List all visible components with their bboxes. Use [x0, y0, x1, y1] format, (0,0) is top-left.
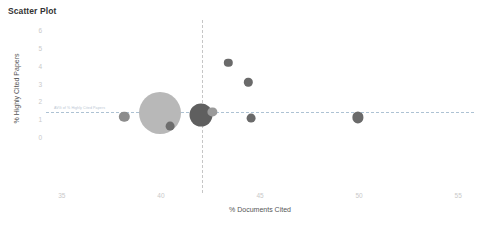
y-axis-tick-label: 2 [16, 98, 42, 105]
reference-line-horizontal [46, 112, 474, 113]
scatter-point[interactable] [208, 107, 217, 116]
x-axis-tick-label: 50 [355, 192, 362, 199]
scatter-point[interactable] [244, 78, 252, 86]
y-axis-tick-label: 4 [16, 62, 42, 69]
y-axis-label: % Highly Cited Papers [13, 29, 20, 149]
x-axis-tick-label: 35 [58, 192, 65, 199]
y-axis-tick-label: 3 [16, 80, 42, 87]
plot-area: AVG of % Highly Cited PapersAVG of % Doc… [46, 25, 474, 145]
x-axis-tick-label: 45 [256, 192, 263, 199]
x-axis-tick-label: 55 [455, 192, 462, 199]
scatter-point[interactable] [165, 122, 174, 131]
y-axis-tick-label: 5 [16, 45, 42, 52]
scatter-point[interactable] [119, 112, 129, 122]
scatter-point[interactable] [352, 112, 363, 123]
reference-line-horizontal-label: AVG of % Highly Cited Papers [54, 106, 105, 110]
x-axis-ticks: 3540455055 [46, 192, 474, 204]
y-axis-tick-label: 6 [16, 27, 42, 34]
scatter-point[interactable] [139, 92, 181, 134]
scatter-plot-chart: Scatter Plot 0123456 AVG of % Highly Cit… [0, 0, 484, 227]
y-axis-tick-label: 1 [16, 116, 42, 123]
scatter-point[interactable] [224, 58, 232, 66]
scatter-point[interactable] [247, 113, 256, 122]
x-axis-label: % Documents Cited [46, 206, 474, 213]
page-title: Scatter Plot [8, 6, 56, 16]
y-axis-tick-label: 0 [16, 134, 42, 141]
x-axis-tick-label: 40 [157, 192, 164, 199]
